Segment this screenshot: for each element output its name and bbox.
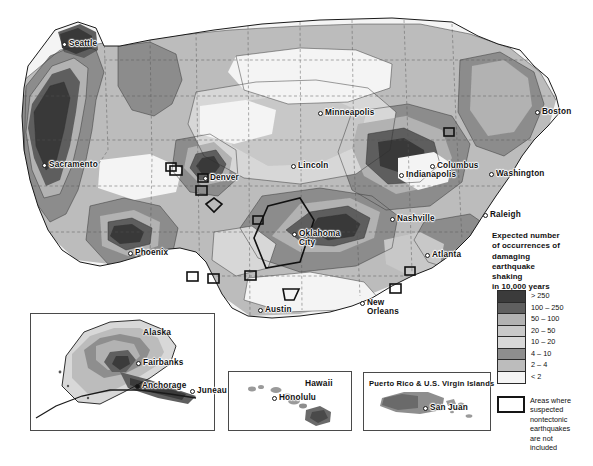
city-marker-oklahoma-city: Oklahoma City (292, 230, 340, 247)
map-legend: Expected number of occurrences of damagi… (492, 231, 591, 293)
legend-label-gt250: > 250 (531, 290, 563, 302)
city-marker-honolulu: Honolulu (272, 394, 316, 403)
legend-label-50-100: 50 – 100 (531, 313, 563, 325)
city-label: Nashville (397, 215, 435, 224)
city-label: Lincoln (298, 162, 329, 171)
legend-label-lt2: < 2 (531, 371, 563, 383)
city-label: Anchorage (142, 382, 187, 391)
city-label: Sacramento (49, 161, 98, 170)
legend-label-column: > 250 100 – 250 50 – 100 20 – 50 10 – 20… (531, 290, 563, 382)
legend-swatch-column (497, 290, 526, 384)
city-dot (136, 361, 141, 366)
map-stage: Alaska Hawaii Puerto Rico & U.S. Virgin … (0, 0, 593, 466)
city-dot (292, 232, 297, 237)
city-label: Minneapolis (325, 109, 375, 118)
city-label: Oklahoma City (299, 230, 340, 247)
city-marker-nashville: Nashville (390, 215, 435, 224)
legend-swatch-gt250 (498, 291, 525, 303)
legend-swatch-2-4 (498, 360, 525, 372)
city-dot (423, 406, 428, 411)
legend-label-10-20: 10 – 20 (531, 336, 563, 348)
legend-swatch-100-250 (498, 303, 525, 315)
city-dot (258, 308, 263, 313)
city-dot (135, 384, 140, 389)
city-marker-lincoln: Lincoln (291, 162, 329, 171)
city-label: Denver (210, 174, 239, 183)
city-dot (390, 217, 395, 222)
city-dot (489, 172, 494, 177)
city-dot (430, 164, 435, 169)
city-marker-boston: Boston (535, 108, 571, 117)
legend-swatch-10-20 (498, 337, 525, 349)
city-dot (535, 110, 540, 115)
city-dot (291, 164, 296, 169)
city-label: Indianapolis (406, 171, 456, 180)
city-label: San Juan (430, 404, 468, 413)
city-marker-san-juan: San Juan (423, 404, 468, 413)
city-dot (203, 176, 208, 181)
city-label: Phoenix (135, 249, 168, 258)
city-marker-anchorage: Anchorage (135, 382, 187, 391)
city-label: New Orleans (367, 299, 399, 316)
city-marker-juneau: Juneau (190, 387, 227, 396)
legend-label-2-4: 2 – 4 (531, 359, 563, 371)
legend-swatch-20-50 (498, 326, 525, 338)
nontectonic-note-text: Areas where suspected nontectonic earthq… (530, 396, 571, 452)
city-dot (190, 389, 195, 394)
legend-title: Expected number of occurrences of damagi… (492, 231, 591, 293)
city-marker-raleigh: Raleigh (483, 211, 521, 220)
city-label: Austin (265, 306, 292, 315)
city-label: Juneau (197, 387, 227, 396)
city-dot (318, 111, 323, 116)
city-marker-fairbanks: Fairbanks (136, 359, 183, 368)
inset-title-puerto-rico: Puerto Rico & U.S. Virgin Islands (369, 379, 494, 388)
city-dot (128, 251, 133, 256)
city-label: Atlanta (432, 251, 461, 260)
city-dot (483, 213, 488, 218)
legend-label-100-250: 100 – 250 (531, 302, 563, 314)
inset-frame-alaska (30, 313, 215, 431)
legend-swatch-50-100 (498, 314, 525, 326)
inset-title-hawaii: Hawaii (305, 378, 333, 388)
city-marker-new-orleans: New Orleans (360, 299, 399, 316)
legend-swatch-4-10 (498, 349, 525, 361)
city-marker-austin: Austin (258, 306, 292, 315)
city-label: Columbus (437, 162, 479, 171)
legend-label-4-10: 4 – 10 (531, 348, 563, 360)
nontectonic-area-swatch (497, 396, 525, 413)
legend-nontectonic-note: Areas where suspected nontectonic earthq… (492, 396, 591, 452)
inset-title-alaska: Alaska (143, 327, 171, 337)
city-dot (62, 42, 67, 47)
city-label: Seattle (69, 40, 97, 49)
legend-label-20-50: 20 – 50 (531, 325, 563, 337)
city-dot (360, 301, 365, 306)
city-marker-atlanta: Atlanta (425, 251, 461, 260)
earthquake-hazard-map-figure: Alaska Hawaii Puerto Rico & U.S. Virgin … (0, 0, 593, 466)
city-dot (425, 253, 430, 258)
city-marker-washington: Washington (489, 170, 545, 179)
city-dot (272, 396, 277, 401)
city-marker-seattle: Seattle (62, 40, 97, 49)
city-label: Fairbanks (143, 359, 183, 368)
city-marker-minneapolis: Minneapolis (318, 109, 375, 118)
city-dot (399, 173, 404, 178)
city-dot (42, 163, 47, 168)
city-label: Raleigh (490, 211, 521, 220)
city-label: Boston (542, 108, 571, 117)
city-marker-indianapolis: Indianapolis (399, 171, 456, 180)
city-marker-sacramento: Sacramento (42, 161, 98, 170)
legend-swatch-lt2 (498, 372, 525, 384)
city-marker-phoenix: Phoenix (128, 249, 168, 258)
city-label: Honolulu (279, 394, 316, 403)
city-marker-columbus: Columbus (430, 162, 479, 171)
city-marker-denver: Denver (203, 174, 239, 183)
city-label: Washington (496, 170, 545, 179)
